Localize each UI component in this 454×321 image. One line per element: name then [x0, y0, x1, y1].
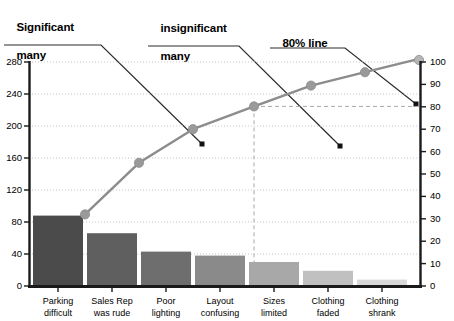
category-label-sales-rep-was-rude: Sales Rep was rude [85, 296, 139, 319]
axis-right-tick-label: 30 [430, 213, 441, 224]
category-label-parking-difficult: Parking difficult [31, 296, 85, 319]
axis-right-tick-label: 40 [430, 190, 441, 201]
axis-left-tick-label: 240 [0, 88, 22, 99]
marker-cumulative-7 [414, 55, 423, 64]
axis-right-tick-label: 0 [430, 280, 435, 291]
axis-left-tick-label: 160 [0, 152, 22, 163]
gridlines-horizontal [29, 62, 421, 254]
marker-cumulative-5 [306, 81, 315, 90]
axis-left-tick-label: 120 [0, 184, 22, 195]
axis-left-ticks [24, 62, 29, 286]
pareto-chart: Significant many insignificant many 80% … [0, 0, 454, 321]
axis-left-tick-label: 0 [0, 280, 22, 291]
category-label-sizes-limited: Sizes limited [247, 296, 301, 319]
cumulative-markers [80, 55, 423, 219]
axis-left-tick-label: 80 [0, 216, 22, 227]
axis-right-ticks [421, 62, 426, 286]
marker-cumulative-1 [80, 210, 89, 219]
axis-right-tick-label: 90 [430, 78, 441, 89]
axis-right-tick-label: 70 [430, 123, 441, 134]
axis-right-tick-label: 50 [430, 168, 441, 179]
axis-right-tick-label: 60 [430, 146, 441, 157]
bar-layout-confusing [195, 256, 245, 286]
bar-sizes-limited [249, 262, 299, 286]
axis-right-tick-label: 100 [430, 56, 446, 67]
axis-right-tick-label: 10 [430, 258, 441, 269]
axis-right-tick-label: 20 [430, 235, 441, 246]
axis-right-tick-label: 80 [430, 101, 441, 112]
axis-left-tick-label: 280 [0, 56, 22, 67]
axis-left-tick-label: 40 [0, 248, 22, 259]
category-label-poor-lighting: Poor lighting [139, 296, 193, 319]
bar-poor-lighting [141, 252, 191, 286]
marker-cumulative-6 [360, 68, 369, 77]
axis-left-tick-label: 200 [0, 120, 22, 131]
marker-cumulative-2 [134, 158, 143, 167]
category-label-clothing-faded: Clothing faded [301, 296, 355, 319]
marker-cumulative-4 [249, 102, 258, 111]
cumulative-line [85, 59, 419, 215]
marker-cumulative-3 [188, 125, 197, 134]
plot-area [0, 0, 454, 321]
bar-clothing-faded [303, 271, 353, 286]
category-label-clothing-shrank: Clothing shrank [355, 296, 409, 319]
reference-lines [254, 106, 421, 286]
category-label-layout-confusing: Layout confusing [193, 296, 247, 319]
bar-parking-difficult [33, 216, 83, 286]
bar-group [33, 216, 407, 286]
bar-sales-rep-was-rude [87, 233, 137, 286]
